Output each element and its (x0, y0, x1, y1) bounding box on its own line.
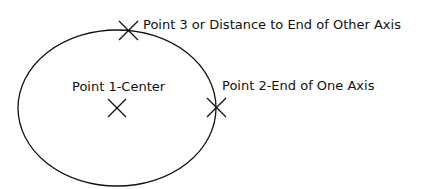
point-2-axis-end-marker-icon (207, 98, 226, 117)
point-2-label: Point 2-End of One Axis (222, 78, 374, 93)
point-1-label: Point 1-Center (72, 79, 165, 94)
point-1-center-marker-icon (108, 99, 126, 117)
point-3-label: Point 3 or Distance to End of Other Axis (143, 17, 401, 32)
